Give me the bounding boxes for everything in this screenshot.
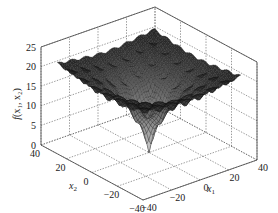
tick-label: 10 — [26, 100, 36, 111]
x2-axis-label: x2 — [68, 180, 77, 193]
tick-label: 40 — [30, 148, 40, 159]
tick-label: 40 — [258, 162, 268, 173]
z-axis-ticks: 0510152025 — [26, 42, 36, 151]
tick-label: −20 — [104, 189, 120, 200]
x2-axis-ticks: 40200−20−40 — [30, 148, 145, 213]
tick-label: 15 — [26, 81, 36, 92]
tick-label: −20 — [170, 192, 186, 203]
tick-label: 20 — [56, 162, 66, 173]
z-axis-label: f(x₁, x₂) — [11, 88, 23, 119]
surface-mesh — [57, 28, 241, 152]
surface-plot: 0510152025 −40−2002040 40200−20−40 f(x₁,… — [0, 0, 278, 213]
tick-label: 5 — [31, 120, 36, 131]
tick-label: 20 — [26, 61, 36, 72]
tick-label: 25 — [26, 42, 36, 53]
x1-axis-label: x1 — [206, 183, 215, 196]
tick-label: 20 — [230, 172, 240, 183]
x1-axis-ticks: −40−2002040 — [141, 162, 268, 213]
tick-label: −40 — [129, 203, 145, 213]
tick-label: 0 — [84, 176, 89, 187]
